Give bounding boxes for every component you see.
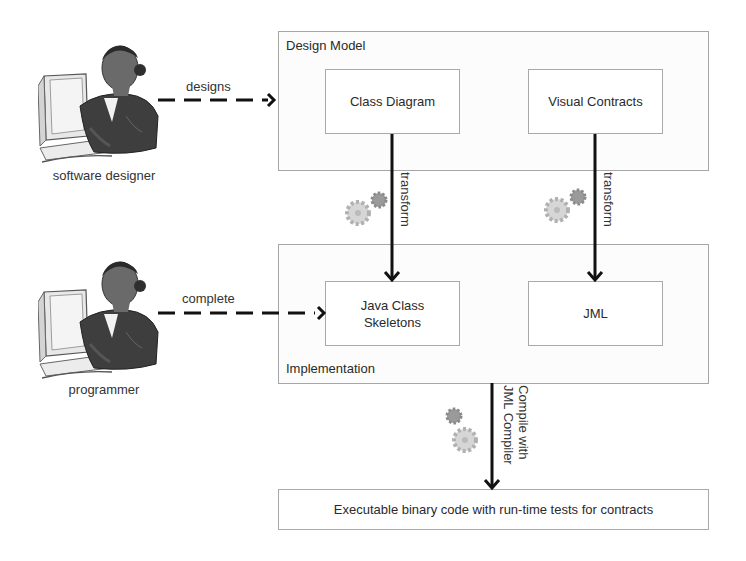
gears-icon [347, 193, 386, 224]
gears-icon [447, 409, 476, 451]
complete-label: complete [182, 291, 235, 306]
complete-arrow [158, 307, 324, 319]
transform-label-left: transform [398, 172, 412, 227]
designs-label: designs [186, 79, 231, 94]
gears-icon [546, 190, 585, 221]
connectors [0, 0, 746, 561]
designs-arrow [158, 94, 274, 106]
compile-label-line1: Compile with [516, 385, 530, 459]
transform-arrow-right [588, 134, 602, 280]
transform-label-right: transform [601, 172, 615, 227]
compile-arrow [485, 383, 499, 488]
compile-label-line2: JML Compiler [501, 385, 515, 465]
transform-arrow-left [385, 134, 399, 280]
